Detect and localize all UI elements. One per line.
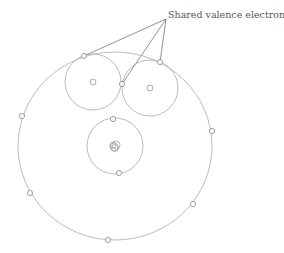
inner-electron	[116, 170, 121, 175]
hydrogen-left-nucleus	[90, 79, 96, 85]
inner-electron	[110, 116, 115, 121]
outer-electron	[209, 128, 214, 133]
oxygen-inner-shell	[87, 118, 143, 174]
shared-electron	[81, 53, 86, 58]
outer-electron	[105, 237, 110, 242]
water-molecule-diagram	[0, 0, 284, 253]
shared-electron	[157, 59, 162, 64]
oxygen-nucleus	[110, 141, 120, 152]
shared-valence-electrons-label: Shared valence electrons	[168, 9, 284, 20]
hydrogen-right-nucleus	[147, 85, 153, 91]
outer-electron	[19, 113, 24, 118]
oxygen-outer-shell	[18, 52, 212, 240]
outer-electron	[27, 190, 32, 195]
outer-electron	[190, 201, 195, 206]
leader-lines	[84, 19, 166, 84]
shared-electron	[119, 81, 124, 86]
